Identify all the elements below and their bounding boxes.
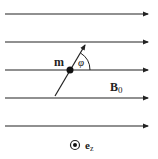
diagram: m φ B0 ez (0, 0, 158, 159)
field-symbol: B (110, 80, 118, 94)
moment-label: m (54, 55, 64, 69)
field-subscript: 0 (118, 85, 123, 95)
angle-label: φ (78, 56, 84, 68)
out-of-page-icon (71, 141, 80, 150)
unit-vector-label: ez (85, 139, 94, 153)
unit-vector-subscript: z (90, 144, 94, 153)
field-label: B0 (110, 80, 123, 95)
field-lines (5, 14, 148, 126)
moment-dot (67, 67, 74, 74)
